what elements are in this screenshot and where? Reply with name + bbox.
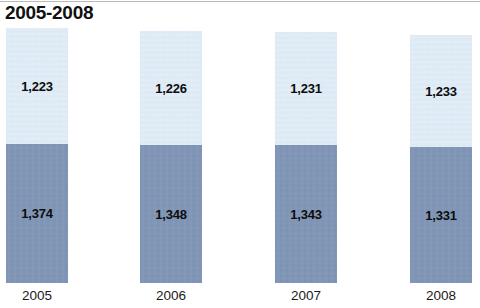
bar-2006-upper-segment: 1,226 bbox=[140, 31, 202, 145]
bar-2008-upper-segment: 1,233 bbox=[410, 35, 472, 147]
bar-2008-lower-label: 1,331 bbox=[425, 208, 457, 223]
stacked-bar-chart: 2005-2008 1,223 1,374 2005 1,226 1,348 2… bbox=[0, 0, 480, 308]
x-axis-label-2007: 2007 bbox=[275, 288, 337, 303]
bar-2006-lower-segment: 1,348 bbox=[140, 145, 202, 283]
bar-2008: 1,233 1,331 bbox=[410, 35, 472, 283]
x-axis-label-2008: 2008 bbox=[410, 288, 472, 303]
bar-2006-upper-label: 1,226 bbox=[155, 81, 187, 96]
bar-2005-upper-segment: 1,223 bbox=[6, 28, 68, 144]
bar-2005-lower-segment: 1,374 bbox=[6, 144, 68, 283]
bar-2007-lower-label: 1,343 bbox=[290, 207, 322, 222]
bar-2008-lower-segment: 1,331 bbox=[410, 147, 472, 283]
bar-2007-upper-label: 1,231 bbox=[290, 81, 322, 96]
x-axis-label-2006: 2006 bbox=[140, 288, 202, 303]
bar-2008-upper-label: 1,233 bbox=[425, 84, 457, 99]
bar-2007-lower-segment: 1,343 bbox=[275, 145, 337, 283]
bar-2007-upper-segment: 1,231 bbox=[275, 32, 337, 145]
bar-2005-upper-label: 1,223 bbox=[21, 79, 53, 94]
x-axis-label-2005: 2005 bbox=[6, 288, 68, 303]
chart-title: 2005-2008 bbox=[5, 2, 93, 24]
bar-2007: 1,231 1,343 bbox=[275, 32, 337, 283]
bar-2006: 1,226 1,348 bbox=[140, 31, 202, 283]
bar-2005-lower-label: 1,374 bbox=[21, 206, 53, 221]
bar-2006-lower-label: 1,348 bbox=[155, 207, 187, 222]
bar-2005: 1,223 1,374 bbox=[6, 28, 68, 283]
